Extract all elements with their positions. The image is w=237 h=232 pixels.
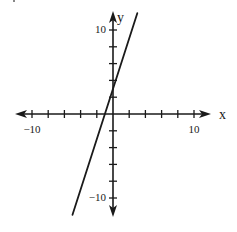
x-axis-label: x [219,107,226,122]
y-tick-label-neg10: −10 [89,191,107,203]
crop-artifact [13,0,15,2]
y-axis-label: y [117,10,124,25]
x-tick-label-10: 10 [189,123,201,135]
x-tick-label-neg10: −10 [23,123,41,135]
y-tick-label-10: 10 [95,23,107,35]
coordinate-plane: x y −10 10 10 −10 [0,0,237,232]
